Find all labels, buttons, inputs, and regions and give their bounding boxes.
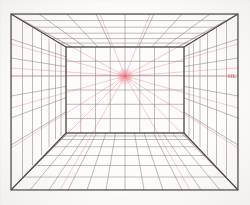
- horizon-line-label: HL: [228, 73, 237, 79]
- perspective-grid-drawing: HL: [0, 0, 250, 205]
- perspective-svg: HL: [0, 0, 250, 205]
- vanishing-point: [124, 75, 126, 77]
- drawing-canvas: ELEMENTARY OF DRAWING: [0, 0, 250, 205]
